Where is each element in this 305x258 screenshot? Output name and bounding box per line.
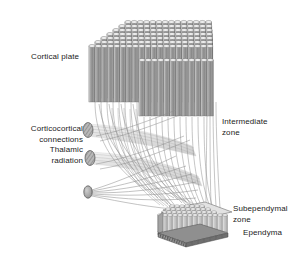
label-subependymal-zone: Subependymal zone xyxy=(233,204,288,225)
label-corticocortical-line1: Corticocortical xyxy=(31,124,83,133)
label-thalamic-line1: Thalamic xyxy=(50,145,83,154)
label-thalamic-radiation: Thalamic radiation xyxy=(0,145,83,166)
label-cortical-plate: Cortical plate xyxy=(31,52,79,63)
label-corticocortical-line2: connections xyxy=(39,135,83,144)
label-ependyma: Ependyma xyxy=(243,228,282,239)
cortical-development-figure: Cortical plate Corticocortical connectio… xyxy=(0,0,305,258)
label-corticocortical-connections: Corticocortical connections xyxy=(0,124,83,145)
label-subependymal-line2: zone xyxy=(233,215,251,224)
corticocortical-fiber-bundle xyxy=(83,123,196,157)
label-intermediate-line1: Intermediate xyxy=(222,117,268,126)
cortical-plate-block xyxy=(89,20,213,116)
radiating-fiber-origin xyxy=(84,186,92,198)
label-ependyma-text: Ependyma xyxy=(243,228,282,237)
label-subependymal-line1: Subependymal xyxy=(233,204,288,213)
cortical-plate-front-ledge xyxy=(139,58,213,116)
label-intermediate-line2: zone xyxy=(222,128,268,139)
label-intermediate-zone: Intermediate zone xyxy=(222,117,268,138)
corticocortical-bundle-end xyxy=(83,123,93,138)
thalamic-bundle-end xyxy=(85,151,95,166)
label-cortical-plate-text: Cortical plate xyxy=(31,52,79,61)
label-thalamic-line2: radiation xyxy=(51,156,83,165)
